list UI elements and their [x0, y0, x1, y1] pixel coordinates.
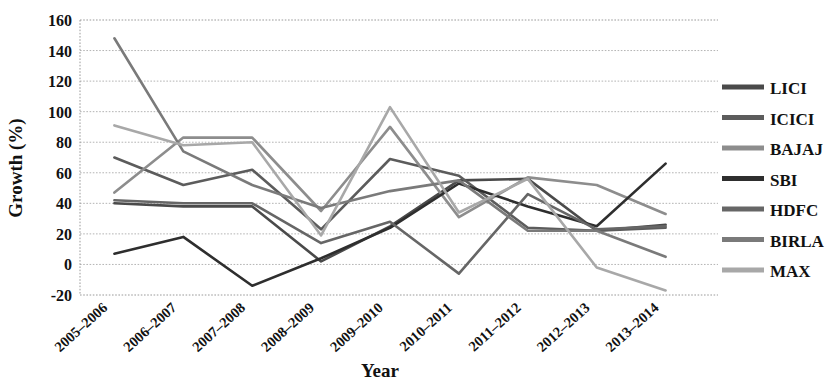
x-tick-label: 2008–2009: [258, 299, 317, 355]
x-axis-tick-labels: 2005–20062006–20072007–20082008–20092009…: [51, 299, 661, 355]
x-tick-label: 2006–2007: [120, 299, 179, 355]
x-tick-label: 2012–2013: [534, 299, 593, 355]
legend-label-lici: LICI: [770, 79, 807, 98]
legend-label-hdfc: HDFC: [770, 201, 818, 220]
legend-label-birla: BIRLA: [770, 232, 825, 251]
y-tick-label: 20: [56, 226, 72, 243]
x-tick-label: 2013–2014: [602, 299, 661, 355]
y-axis-tick-labels: 160140120100806040200-20: [48, 12, 72, 304]
y-tick-label: 60: [56, 165, 72, 182]
y-tick-label: 140: [48, 43, 72, 60]
chart-legend: LICIICICIBAJAJSBIHDFCBIRLAMAX: [722, 79, 825, 281]
legend-label-max: MAX: [770, 262, 811, 281]
x-tick-label: 2005–2006: [51, 299, 110, 355]
y-tick-label: -20: [51, 287, 72, 304]
series-line-birla: [114, 38, 665, 256]
gridlines: [80, 20, 718, 295]
x-tick-label: 2007–2008: [189, 299, 248, 355]
y-tick-label: 100: [48, 104, 72, 121]
x-tick-label: 2011–2012: [465, 299, 524, 354]
legend-label-icici: ICICI: [770, 110, 815, 129]
series-line-max: [114, 107, 665, 290]
y-tick-label: 120: [48, 73, 72, 90]
y-tick-label: 80: [56, 134, 72, 151]
legend-label-sbi: SBI: [770, 171, 798, 190]
x-tick-label: 2010–2011: [396, 299, 455, 354]
series-lines: [114, 38, 665, 290]
x-tick-label: 2009–2010: [327, 299, 386, 355]
legend-label-bajaj: BAJAJ: [770, 140, 823, 159]
y-tick-label: 160: [48, 12, 72, 29]
chart-figure: Growth (%) Year 160140120100806040200-20…: [0, 0, 825, 383]
y-tick-label: 0: [64, 256, 72, 273]
y-axis-title: Growth (%): [5, 118, 27, 217]
y-tick-label: 40: [56, 195, 72, 212]
x-axis-title: Year: [361, 360, 400, 381]
growth-line-chart: Growth (%) Year 160140120100806040200-20…: [0, 0, 825, 383]
